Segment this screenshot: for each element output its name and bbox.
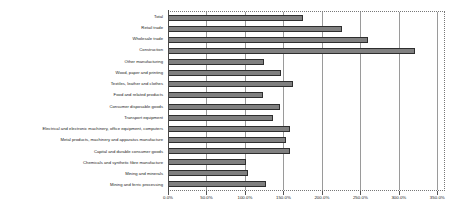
category-label: Mining and ferric processing [0,180,166,191]
bar[interactable] [168,48,415,54]
tick-label: 0.0% [163,196,173,200]
bar-row [168,123,444,134]
tick-label: 50.0% [200,196,212,200]
bar-row [168,79,444,90]
bar[interactable] [168,181,266,187]
tick-label: 150.0% [276,196,291,200]
bar[interactable] [168,126,290,132]
bar[interactable] [168,170,248,176]
bar-row [168,45,444,56]
bar[interactable] [168,92,263,98]
bar-row [168,101,444,112]
bar[interactable] [168,148,290,154]
bar[interactable] [168,104,280,110]
bar-row [168,157,444,168]
bar-row [168,57,444,68]
bar[interactable] [168,159,246,165]
bars-container [168,12,444,190]
bar-row [168,90,444,101]
category-label: Food and related products [0,90,166,101]
tick-label: 250.0% [353,196,368,200]
bar[interactable] [168,70,281,76]
category-label: Capital and durable consumer goods [0,146,166,157]
category-label: Other manufacturing [0,56,166,67]
value-axis: 0.0%50.0%100.0%150.0%200.0%250.0%300.0%3… [168,191,445,213]
bar-row [168,146,444,157]
category-label: Total [0,11,166,22]
bar-row [168,68,444,79]
tick-label: 200.0% [314,196,329,200]
value-axis-line [168,10,169,192]
bar-row [168,12,444,23]
bar-row [168,34,444,45]
bar-row [168,168,444,179]
category-label: Textiles, leather and clothes [0,79,166,90]
tick-label: 350.0% [430,196,445,200]
category-label: Wood, paper and printing [0,67,166,78]
category-label: Transport equipment [0,112,166,123]
bar[interactable] [168,115,273,121]
category-label: Wholesale trade [0,34,166,45]
bar[interactable] [168,15,303,21]
category-label: Consumer disposable goods [0,101,166,112]
bar-row [168,134,444,145]
category-label: Electrical and electronic machinery, off… [0,124,166,135]
category-label: Chemicals and synthetic fibre manufactur… [0,157,166,168]
category-label: Construction [0,45,166,56]
bar[interactable] [168,81,293,87]
tick-label: 300.0% [391,196,406,200]
plot-area [168,11,445,191]
bar[interactable] [168,37,368,43]
bar-row [168,23,444,34]
bar[interactable] [168,137,286,143]
horizontal-bar-chart: TotalRetail tradeWholesale tradeConstruc… [0,0,451,222]
bar[interactable] [168,59,264,65]
bar-row [168,179,444,190]
category-axis: TotalRetail tradeWholesale tradeConstruc… [0,11,166,191]
tick-label: 100.0% [237,196,252,200]
bar-row [168,112,444,123]
bar[interactable] [168,26,342,32]
category-label: Retail trade [0,22,166,33]
category-label: Mining and minerals [0,169,166,180]
category-label: Metal products, machinery and apparatus … [0,135,166,146]
